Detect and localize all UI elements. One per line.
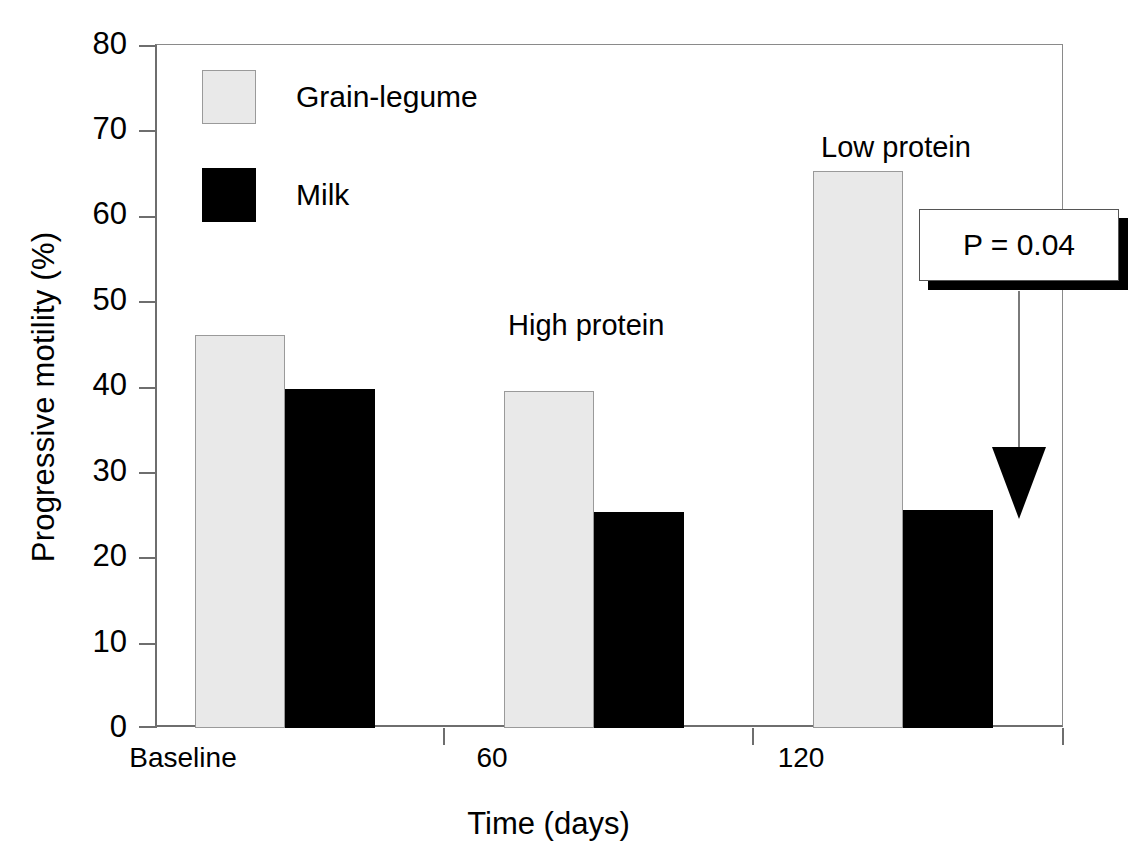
y-tick-mark-20 [139, 557, 157, 559]
legend-label-grain-legume: Grain-legume [296, 80, 478, 114]
y-tick-mark-50 [139, 301, 157, 303]
legend-item-grain-legume: Grain-legume [202, 70, 478, 124]
legend-swatch-milk [202, 168, 256, 222]
y-tick-label-10: 10 [41, 626, 127, 657]
y-tick-label-30: 30 [41, 455, 127, 486]
y-tick-label-0: 0 [41, 711, 127, 742]
bar-grain-legume-baseline [195, 335, 285, 728]
legend-item-milk: Milk [202, 168, 349, 222]
bar-grain-legume-60 [504, 391, 594, 728]
p-value-text: P = 0.04 [963, 228, 1075, 262]
y-tick-mark-0 [139, 726, 157, 728]
y-tick-mark-10 [139, 643, 157, 645]
bar-milk-120 [903, 510, 993, 728]
y-tick-mark-70 [139, 130, 157, 132]
x-tick-label-120: 120 [671, 742, 931, 774]
annotation-low-protein: Low protein [821, 131, 971, 164]
figure-caption [8, 843, 1088, 859]
x-tick-label-baseline: Baseline [53, 742, 313, 774]
x-tick-label-60: 60 [362, 742, 622, 774]
bar-grain-legume-120 [813, 171, 903, 728]
plot-area: Grain-legume Milk High protein Low prote… [155, 44, 1063, 727]
y-tick-label-50: 50 [41, 284, 127, 315]
callout-arrow-line [1018, 291, 1020, 451]
p-value-box: P = 0.04 [919, 209, 1119, 281]
y-tick-label-80: 80 [41, 28, 127, 59]
x-tick-mark-3 [1062, 728, 1064, 745]
y-tick-label-20: 20 [41, 540, 127, 571]
y-tick-label-70: 70 [41, 113, 127, 144]
y-tick-label-60: 60 [41, 198, 127, 229]
callout-arrow-head-icon [992, 447, 1046, 519]
y-tick-label-40: 40 [41, 369, 127, 400]
bar-milk-baseline [285, 389, 375, 728]
legend-label-milk: Milk [296, 178, 349, 212]
y-tick-mark-40 [139, 387, 157, 389]
y-tick-mark-30 [139, 472, 157, 474]
y-tick-mark-60 [139, 216, 157, 218]
bar-milk-60 [594, 512, 684, 728]
x-axis-title: Time (days) [0, 806, 1097, 842]
y-tick-mark-80 [139, 45, 157, 47]
annotation-high-protein: High protein [508, 309, 664, 342]
legend-swatch-grain-legume [202, 70, 256, 124]
